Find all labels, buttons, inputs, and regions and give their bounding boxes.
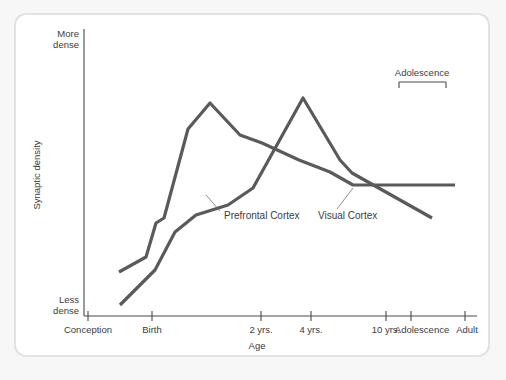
tick-label-conception: Conception <box>64 324 112 335</box>
y-axis-top-label-line2: dense <box>53 39 79 50</box>
y-axis-top-label-line1: More <box>57 28 79 39</box>
adolescence-bracket-icon <box>399 82 446 88</box>
y-axis-bottom-label-line1: Less <box>59 294 79 305</box>
tick-label-adult: Adult <box>456 324 478 335</box>
series-label-prefrontal-cortex: Prefrontal Cortex <box>224 210 300 221</box>
tick-label-4yrs: 4 yrs. <box>299 324 322 335</box>
y-axis-bottom-label-line2: dense <box>53 305 79 316</box>
adolescence-annotation-label: Adolescence <box>395 67 449 78</box>
tick-label-2yrs: 2 yrs. <box>249 324 272 335</box>
tick-label-birth: Birth <box>142 324 162 335</box>
x-axis-title: Age <box>249 340 266 351</box>
synaptic-density-line-chart: Conception Birth 2 yrs. 4 yrs. 10 yrs. A… <box>0 0 506 380</box>
visual-cortex-leader-line <box>337 188 353 209</box>
y-axis-title: Synaptic density <box>31 140 42 209</box>
series-label-visual-cortex: Visual Cortex <box>318 210 377 221</box>
chart-screenshot-root: Conception Birth 2 yrs. 4 yrs. 10 yrs. A… <box>0 0 506 380</box>
tick-label-adolescence: Adolescence <box>395 324 449 335</box>
